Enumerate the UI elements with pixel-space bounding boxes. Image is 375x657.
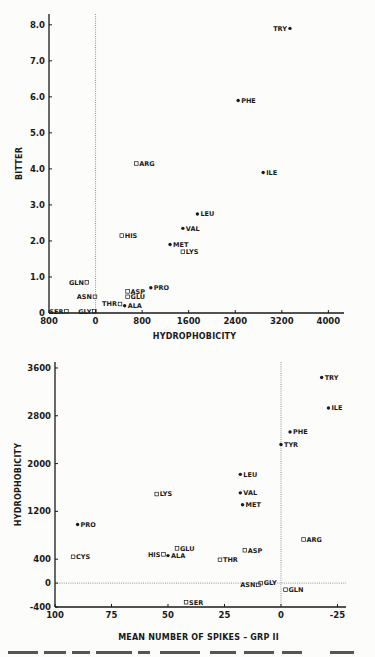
open-marker-icon <box>71 555 75 559</box>
y-tick-label: 2000 <box>27 459 51 469</box>
point-label: ASN <box>240 581 255 589</box>
filled-marker-icon <box>241 503 244 506</box>
data-point-ala: ALA <box>123 302 142 310</box>
point-label: ARG <box>307 536 322 544</box>
point-label: GLY <box>264 579 277 587</box>
x-axis-label: HYDROPHOBICITY <box>153 332 236 341</box>
open-marker-icon <box>162 553 166 557</box>
filled-marker-icon <box>279 443 282 446</box>
point-label: MET <box>246 501 262 509</box>
data-point-try: TRY <box>273 25 291 33</box>
open-marker-icon <box>85 281 89 285</box>
point-label: CYS <box>76 553 90 561</box>
point-label: SER <box>49 308 63 316</box>
open-marker-icon <box>135 162 139 166</box>
data-point-arg: ARG <box>302 536 322 544</box>
open-marker-icon <box>302 538 306 542</box>
data-point-lys: LYS <box>181 248 199 256</box>
point-label: VAL <box>186 225 200 233</box>
point-label: ALA <box>128 302 142 310</box>
data-point-cys: CYS <box>71 553 90 561</box>
point-label: PRO <box>154 284 170 292</box>
point-label: SER <box>189 599 203 607</box>
data-point-val: VAL <box>239 489 257 497</box>
point-label: TRY <box>273 25 287 33</box>
data-point-leu: LEU <box>196 210 215 218</box>
data-point-phe: PHE <box>288 428 307 436</box>
point-label: ILE <box>331 404 342 412</box>
data-point-ala: ALA <box>166 552 185 560</box>
x-tick-label: 50 <box>162 610 174 620</box>
data-point-pro: PRO <box>76 521 96 529</box>
open-marker-icon <box>175 547 179 551</box>
point-label: LYS <box>160 490 173 498</box>
data-point-glu: GLU <box>126 293 145 301</box>
figure-canvas: 8000800160024003200400001.02.03.04.05.06… <box>0 0 375 657</box>
data-point-ile: ILE <box>261 169 277 177</box>
x-axis-label: MEAN NUMBER OF SPIKES – GRP II <box>118 633 279 642</box>
point-label: GLU <box>131 293 146 301</box>
data-point-try: TRY <box>320 374 339 382</box>
y-tick-label: 5.0 <box>30 128 45 138</box>
y-tick-label: 2.0 <box>30 236 45 246</box>
filled-marker-icon <box>288 430 291 433</box>
point-label: ASN <box>77 293 92 301</box>
y-tick-label: 400 <box>33 554 51 564</box>
x-tick-label: 3200 <box>270 316 294 326</box>
point-label: TYR <box>284 441 298 449</box>
open-marker-icon <box>120 234 124 238</box>
y-axis-label: BITTER <box>15 147 24 180</box>
data-point-met: MET <box>241 501 262 509</box>
filled-marker-icon <box>236 99 239 102</box>
x-tick-label: 75 <box>106 610 118 620</box>
x-tick-label: 0 <box>93 316 99 326</box>
point-label: PHE <box>293 428 308 436</box>
filled-marker-icon <box>76 523 79 526</box>
x-tick-label: -25 <box>330 610 345 620</box>
point-label: ASP <box>248 547 263 555</box>
data-point-thr: THR <box>102 300 122 308</box>
x-tick-label: 800 <box>133 316 151 326</box>
open-marker-icon <box>126 295 130 299</box>
point-label: LEU <box>243 471 257 479</box>
data-point-ile: ILE <box>327 404 343 412</box>
filled-marker-icon <box>168 243 171 246</box>
point-label: TRY <box>325 374 339 382</box>
y-tick-label: 3600 <box>27 363 51 373</box>
data-point-ser: SER <box>49 308 68 316</box>
point-label: THR <box>102 300 117 308</box>
data-point-lys: LYS <box>155 490 173 498</box>
open-marker-icon <box>184 600 188 604</box>
data-point-asn: ASN <box>77 293 97 301</box>
filled-marker-icon <box>123 304 126 307</box>
open-marker-icon <box>155 492 159 496</box>
point-label: VAL <box>243 489 257 497</box>
filled-marker-icon <box>239 491 242 494</box>
filled-marker-icon <box>320 376 323 379</box>
point-label: ILE <box>266 169 277 177</box>
data-point-pro: PRO <box>149 284 169 292</box>
data-point-val: VAL <box>181 225 199 233</box>
x-tick-label: 1600 <box>177 316 201 326</box>
point-label: PRO <box>81 521 97 529</box>
filled-marker-icon <box>327 406 330 409</box>
open-marker-icon <box>284 588 288 592</box>
x-tick-label: 25 <box>219 610 231 620</box>
x-tick-label: 4000 <box>317 316 341 326</box>
data-point-his: HIS <box>120 232 138 240</box>
filled-marker-icon <box>149 286 152 289</box>
point-label: GLN <box>69 279 84 287</box>
data-point-gln: GLN <box>284 586 304 594</box>
data-point-gln: GLN <box>69 279 89 287</box>
point-label: HIS <box>148 551 161 559</box>
point-label: THR <box>223 556 238 564</box>
filled-marker-icon <box>181 227 184 230</box>
point-label: GLN <box>289 586 304 594</box>
open-marker-icon <box>218 558 222 562</box>
filled-marker-icon <box>166 554 169 557</box>
point-label: GLY <box>78 308 91 316</box>
y-tick-label: 2800 <box>27 411 51 421</box>
point-label: PHE <box>241 97 256 105</box>
filled-marker-icon <box>261 171 264 174</box>
point-label: ARG <box>139 160 154 168</box>
